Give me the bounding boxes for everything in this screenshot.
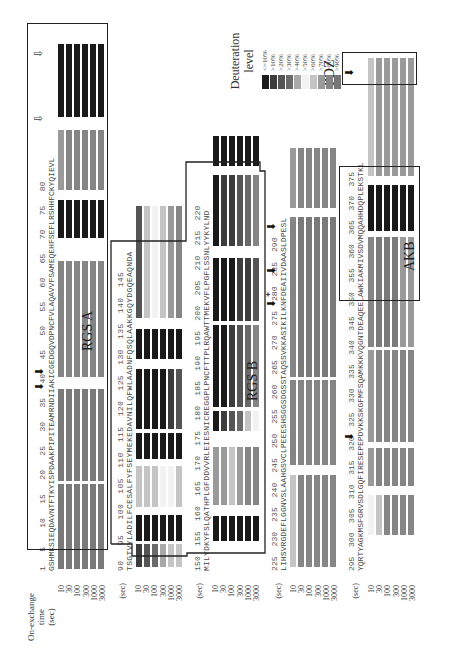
solid-arrow-icon: ⬇ xyxy=(266,222,277,231)
hdx-figure: On-exchange time (sec) 10301003001000300… xyxy=(0,0,460,651)
legend-label: >70% xyxy=(317,54,325,71)
residue-ticks-row-4: 225 230 235 240 245 250 255 260 265 270 … xyxy=(270,237,279,571)
legend-label: >30% xyxy=(285,54,293,71)
domain-box-akb xyxy=(339,166,420,301)
legend-title: Deuteration level xyxy=(228,11,256,111)
time-labels-row-5: 103010030010003000 xyxy=(368,585,417,611)
legend-label: >50% xyxy=(301,54,309,71)
legend-label: >60% xyxy=(309,54,317,71)
legend-label: >80% xyxy=(325,54,333,71)
legend-label: >90% xyxy=(333,54,341,71)
legend-label: >20% xyxy=(277,54,285,71)
time-unit-row-4: (sec) xyxy=(275,583,283,609)
domain-label-rgs-b: RGS B xyxy=(245,361,261,401)
solid-arrow-icon: ⬇ xyxy=(266,266,277,275)
sequence-row-4: LIHSVRGDEFLGGNVSLAAHGSVCLPEEESHSGGSDGSST… xyxy=(279,218,288,571)
legend-title-line2: level xyxy=(242,11,256,111)
solid-arrow-icon: ⬇ xyxy=(266,299,277,308)
legend-label: >10% xyxy=(269,54,277,71)
legend-title-line1: Deuteration xyxy=(228,11,242,111)
time-labels-row-4: 103010030010003000 xyxy=(290,585,339,611)
legend-label: >40% xyxy=(293,54,301,71)
asterisk-icon: * xyxy=(265,292,275,297)
solid-arrow-icon: ⬇ xyxy=(344,68,355,77)
legend-swatch xyxy=(262,75,269,89)
time-unit-row-5: (sec) xyxy=(352,583,360,609)
domain-label-akb: AKB xyxy=(402,241,418,271)
legend-label: <=10% xyxy=(261,50,269,71)
solid-arrow-icon: ⬇ xyxy=(344,432,355,441)
